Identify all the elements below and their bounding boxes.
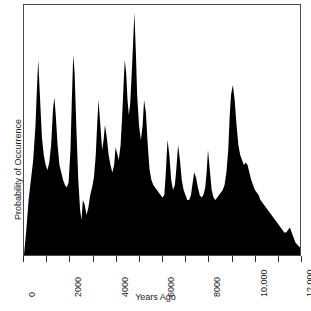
x-tick-8000 (208, 256, 209, 262)
y-axis-title-text: Probability of Occurrence (13, 119, 23, 220)
x-tick-9000 (232, 256, 233, 262)
x-tick-2000 (69, 256, 70, 262)
x-tick-3000 (93, 256, 94, 262)
x-tick-5000 (139, 256, 140, 262)
chart-figure: 0200040006000800010,00012,000 Years Ago … (0, 0, 311, 311)
y-axis-title: Probability of Occurrence (2, 60, 16, 220)
x-tick-10000 (255, 256, 256, 262)
x-tick-0 (23, 256, 24, 262)
plot-area (23, 4, 301, 256)
density-area-plot (24, 5, 300, 255)
x-tick-12000 (301, 256, 302, 262)
x-tick-6000 (162, 256, 163, 262)
x-axis-title: Years Ago (0, 292, 311, 302)
x-tick-4000 (116, 256, 117, 262)
x-axis-ticks (23, 256, 302, 263)
x-tick-7000 (185, 256, 186, 262)
x-tick-1000 (46, 256, 47, 262)
density-fill-path (24, 13, 300, 256)
x-tick-11000 (278, 256, 279, 262)
